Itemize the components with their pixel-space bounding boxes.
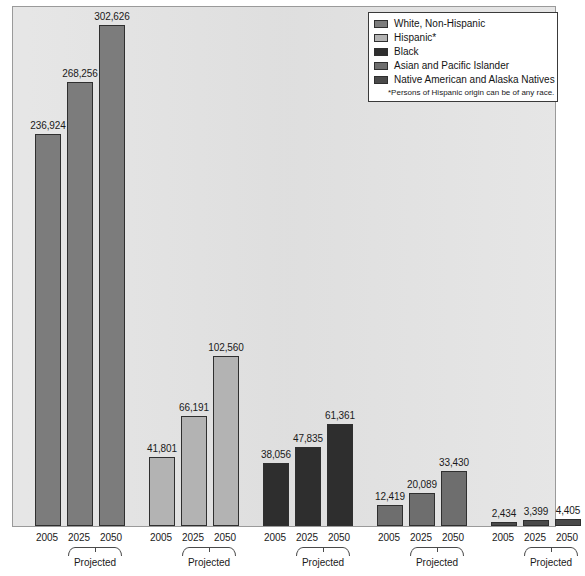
projected-label: Projected	[288, 557, 358, 568]
projected-label: Projected	[60, 557, 130, 568]
bar	[149, 457, 175, 526]
legend-item-label: White, Non-Hispanic	[394, 18, 485, 29]
projected-label: Projected	[402, 557, 472, 568]
bar	[523, 520, 549, 526]
bar	[327, 424, 353, 526]
bar	[67, 82, 93, 526]
bar	[213, 356, 239, 526]
bar	[377, 505, 403, 526]
legend-item: Hispanic*	[374, 31, 552, 44]
bar-value-label: 102,560	[198, 342, 254, 353]
x-tick-label: 2050	[205, 532, 245, 543]
legend-item: White, Non-Hispanic	[374, 17, 552, 30]
projected-label: Projected	[516, 557, 585, 568]
legend-item-label: Asian and Pacific Islander	[394, 60, 509, 71]
legend-footnote: *Persons of Hispanic origin can be of an…	[388, 88, 552, 98]
projected-brace	[68, 547, 122, 556]
legend-item: Native American and Alaska Natives	[374, 73, 552, 86]
legend-items: White, Non-HispanicHispanic*BlackAsian a…	[374, 17, 552, 86]
x-axis: 200520252050Projected200520252050Project…	[12, 527, 556, 576]
bar-value-label: 302,626	[84, 11, 140, 22]
legend-item-label: Black	[394, 46, 418, 57]
x-tick-label: 2050	[547, 532, 585, 543]
bar-value-label: 33,430	[426, 457, 482, 468]
bar	[441, 471, 467, 526]
projected-brace	[524, 547, 578, 556]
legend-item-label: Hispanic*	[394, 32, 436, 43]
bar	[295, 447, 321, 526]
legend-item: Black	[374, 45, 552, 58]
legend-item: Asian and Pacific Islander	[374, 59, 552, 72]
legend-swatch-icon	[374, 34, 388, 42]
x-tick-label: 2050	[433, 532, 473, 543]
bar	[491, 522, 517, 526]
bar-value-label: 4,405	[540, 505, 585, 516]
legend-swatch-icon	[374, 62, 388, 70]
bar	[263, 463, 289, 526]
chart-legend: White, Non-HispanicHispanic*BlackAsian a…	[368, 12, 558, 102]
x-tick-label: 2050	[319, 532, 359, 543]
projected-brace	[182, 547, 236, 556]
legend-swatch-icon	[374, 20, 388, 28]
bar	[555, 519, 581, 526]
projected-brace	[410, 547, 464, 556]
legend-swatch-icon	[374, 48, 388, 56]
legend-item-label: Native American and Alaska Natives	[394, 74, 555, 85]
x-tick-label: 2050	[91, 532, 131, 543]
projected-label: Projected	[174, 557, 244, 568]
projected-brace	[296, 547, 350, 556]
bar	[35, 134, 61, 526]
bar	[99, 25, 125, 526]
bar	[409, 493, 435, 526]
bar-value-label: 61,361	[312, 410, 368, 421]
bar	[181, 416, 207, 526]
legend-swatch-icon	[374, 76, 388, 84]
